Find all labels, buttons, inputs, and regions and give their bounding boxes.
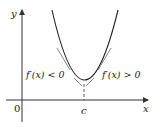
- y-axis-label: y: [10, 8, 17, 19]
- origin-label: 0: [14, 103, 20, 114]
- c-label: c: [81, 105, 87, 116]
- x-axis-label: x: [143, 103, 149, 114]
- tangent-right: [98, 48, 111, 70]
- right-derivative-annotation: f′(x) > 0: [101, 69, 141, 80]
- left-derivative-annotation: f′(x) < 0: [25, 69, 65, 80]
- derivative-sign-diagram: y x 0 c f′(x) < 0 f′(x) > 0: [0, 0, 155, 127]
